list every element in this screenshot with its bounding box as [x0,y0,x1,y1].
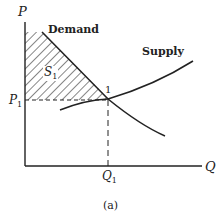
surplus-label: S1 [43,66,58,81]
price-label: P1 [9,94,22,109]
quantity-label: Q1 [102,170,117,185]
x-axis-label: Q [205,160,216,173]
caption: (a) [103,200,118,211]
supply-demand-figure: P Demand Supply S1 1 P1 Q1 Q (a) [0,0,224,223]
demand-label: Demand [48,24,99,35]
graph-canvas [0,0,224,223]
y-axis-label: P [18,5,27,18]
equilibrium-label: 1 [105,85,111,95]
supply-label: Supply [142,46,184,57]
surplus-area [25,32,108,100]
